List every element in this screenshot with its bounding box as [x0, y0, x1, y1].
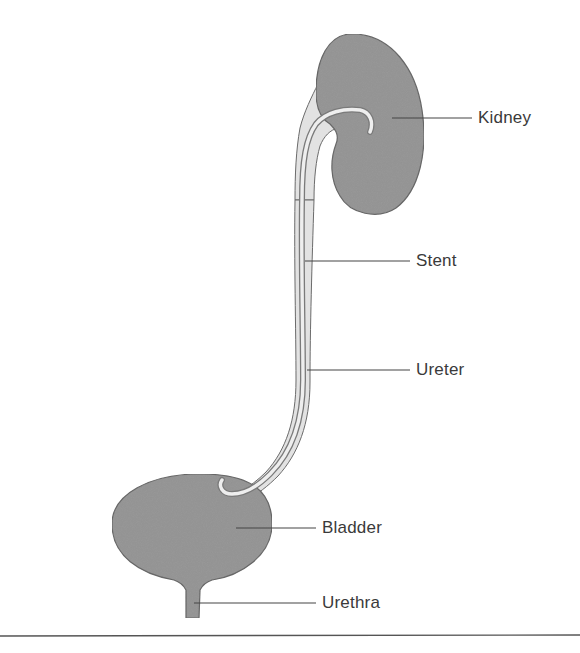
- label-bladder: Bladder: [322, 518, 382, 538]
- bottom-rule: [0, 635, 580, 636]
- bladder-shape: [112, 474, 272, 618]
- label-stent: Stent: [416, 251, 457, 271]
- label-urethra: Urethra: [322, 593, 380, 613]
- label-kidney: Kidney: [478, 108, 531, 128]
- urinary-stent-diagram: [0, 0, 580, 653]
- label-ureter: Ureter: [416, 360, 464, 380]
